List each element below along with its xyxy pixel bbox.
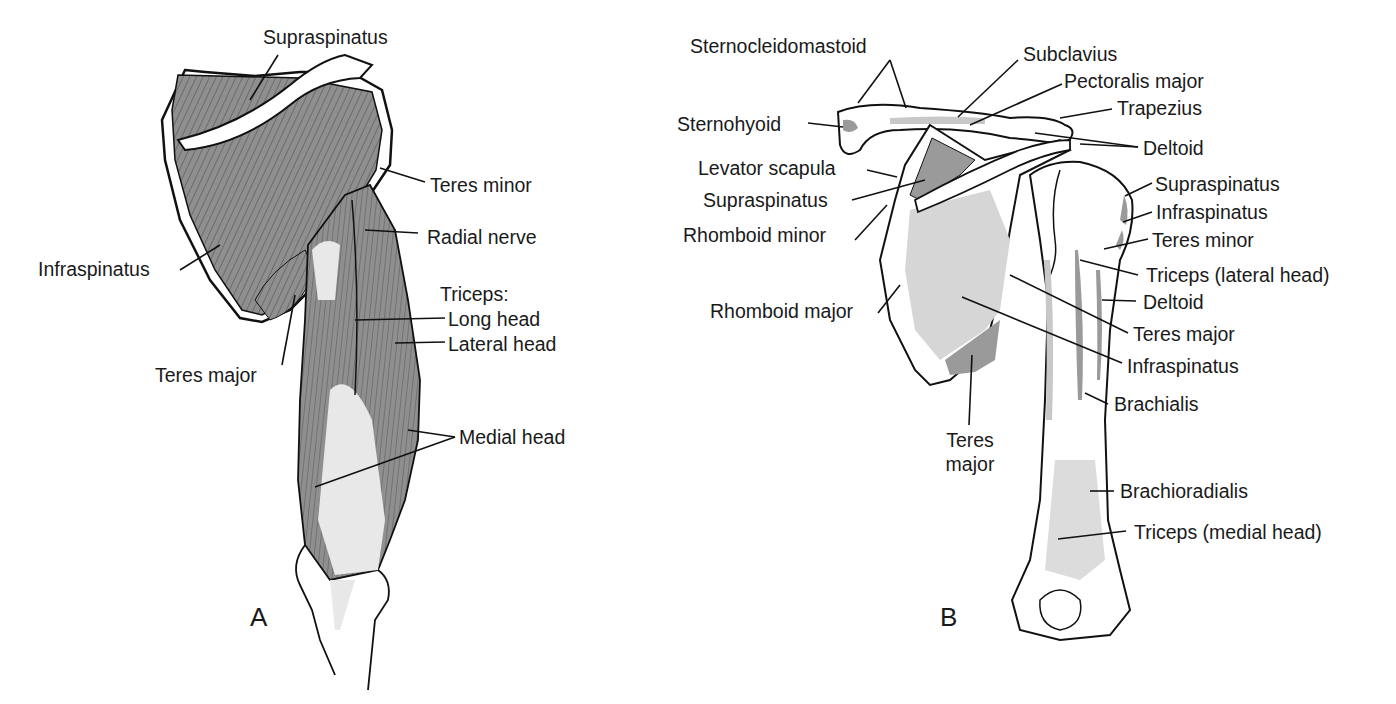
label-infraspinatus-mid: Infraspinatus [1127,355,1239,377]
label-levator-scapula: Levator scapula [698,157,836,179]
label-teres-major-bottom-line1: Teres [935,429,1005,451]
label-rhomboid-minor: Rhomboid minor [683,224,826,246]
label-teres-minor: Teres minor [430,174,532,196]
label-supraspinatus-left: Supraspinatus [703,189,828,211]
label-teres-minor-right: Teres minor [1152,229,1254,251]
label-brachialis: Brachialis [1114,393,1199,415]
label-rhomboid-major: Rhomboid major [710,300,853,322]
label-sternocleidomastoid: Sternocleidomastoid [690,35,867,57]
label-teres-major: Teres major [155,364,257,386]
label-infraspinatus-right: Infraspinatus [1156,201,1268,223]
label-teres-major-bottom: Teres major [935,429,1005,475]
label-pectoralis-major: Pectoralis major [1064,70,1204,92]
label-teres-major-right: Teres major [1133,323,1235,345]
panel-letter-b: B [940,603,957,631]
label-supraspinatus: Supraspinatus [263,26,388,48]
panel-b-drawing [838,105,1133,640]
label-sternohyoid: Sternohyoid [677,113,781,135]
panel-letter-a: A [250,603,267,631]
label-medial-head: Medial head [459,426,565,448]
label-long-head: Long head [448,308,540,330]
label-teres-major-bottom-line2: major [935,453,1005,475]
label-brachioradialis: Brachioradialis [1120,480,1248,502]
label-triceps: Triceps: [440,283,509,305]
label-lateral-head: Lateral head [448,333,556,355]
label-triceps-medial-head: Triceps (medial head) [1134,521,1322,543]
label-radial-nerve: Radial nerve [427,226,536,248]
label-trapezius: Trapezius [1117,97,1202,119]
label-subclavius: Subclavius [1023,43,1117,65]
label-supraspinatus-right: Supraspinatus [1155,173,1280,195]
label-triceps-lateral-head: Triceps (lateral head) [1146,264,1330,286]
label-deltoid-mid: Deltoid [1143,291,1204,313]
label-infraspinatus: Infraspinatus [38,258,150,280]
label-deltoid-top: Deltoid [1143,137,1204,159]
